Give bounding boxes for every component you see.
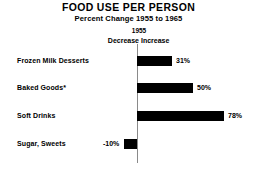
bar-value-label: -10% <box>103 135 119 152</box>
plot-area: Frozen Milk Desserts31%Baked Goods*50%So… <box>0 0 257 173</box>
bar <box>137 111 224 121</box>
bar-value-label: 31% <box>176 52 190 69</box>
category-label: Sugar, Sweets <box>17 135 66 152</box>
category-label: Baked Goods* <box>17 79 66 96</box>
bar <box>124 139 137 149</box>
chart-container: FOOD USE PER PERSON Percent Change 1955 … <box>0 0 257 173</box>
bar <box>137 83 193 93</box>
bar-value-label: 78% <box>228 107 242 124</box>
bar-row: Baked Goods*50% <box>0 79 257 96</box>
category-label: Soft Drinks <box>17 107 55 124</box>
bar-row: Frozen Milk Desserts31% <box>0 52 257 69</box>
category-label: Frozen Milk Desserts <box>17 52 89 69</box>
bar-row: Soft Drinks78% <box>0 107 257 124</box>
bar-value-label: 50% <box>197 79 211 96</box>
bar-row: Sugar, Sweets-10% <box>0 135 257 152</box>
bar <box>137 56 172 66</box>
